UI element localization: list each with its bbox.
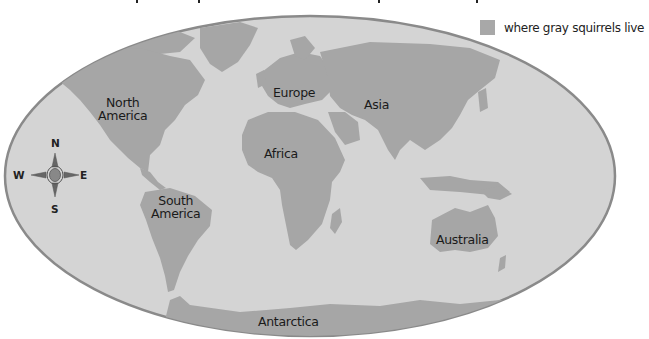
label-europe: Europe [273,86,315,99]
world-map [0,0,649,339]
compass-west-label: W [13,169,25,181]
compass-north-label: N [51,137,60,149]
compass-south-label: S [51,203,59,215]
legend: where gray squirrels live [480,20,644,35]
label-antarctica: Antarctica [258,315,319,328]
label-south-america: South America [151,194,200,220]
label-africa: Africa [264,147,298,160]
label-australia: Australia [436,233,489,246]
legend-text: where gray squirrels live [504,21,644,35]
legend-swatch [480,20,495,35]
title-remnant [136,0,478,3]
label-asia: Asia [364,98,389,111]
compass-east-label: E [80,169,87,181]
label-line: America [98,109,147,122]
label-north-america: North America [98,96,147,122]
label-line: America [151,207,200,220]
